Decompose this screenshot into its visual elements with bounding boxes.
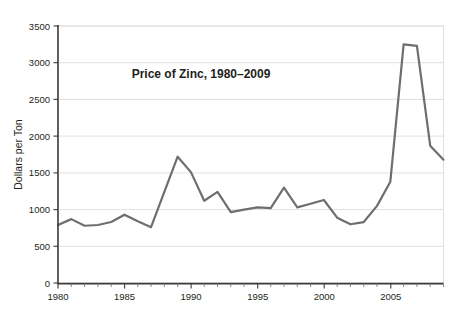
y-tick-label-2000: 2000 — [29, 131, 50, 142]
zinc-price-line-chart: 3500 3000 2500 2000 1500 1000 500 0 Doll… — [0, 0, 470, 315]
y-tick-label-2500: 2500 — [29, 94, 50, 105]
x-tick-label-2000: 2000 — [314, 291, 335, 302]
x-tick-label-2005: 2005 — [380, 291, 401, 302]
chart-title: Price of Zinc, 1980–2009 — [132, 67, 271, 81]
chart-background — [0, 0, 470, 315]
x-tick-label-1990: 1990 — [181, 291, 202, 302]
y-tick-label-1500: 1500 — [29, 167, 50, 178]
y-tick-label-1000: 1000 — [29, 204, 50, 215]
y-axis-title: Dollars per Ton — [12, 119, 24, 190]
chart-figure: 3500 3000 2500 2000 1500 1000 500 0 Doll… — [0, 0, 470, 315]
x-tick-label-1995: 1995 — [247, 291, 268, 302]
x-tick-label-1985: 1985 — [114, 291, 135, 302]
y-tick-label-3000: 3000 — [29, 57, 50, 68]
x-tick-label-1980: 1980 — [47, 291, 68, 302]
y-tick-label-3500: 3500 — [29, 21, 50, 32]
y-tick-label-0: 0 — [45, 278, 50, 289]
y-tick-label-500: 500 — [34, 241, 50, 252]
